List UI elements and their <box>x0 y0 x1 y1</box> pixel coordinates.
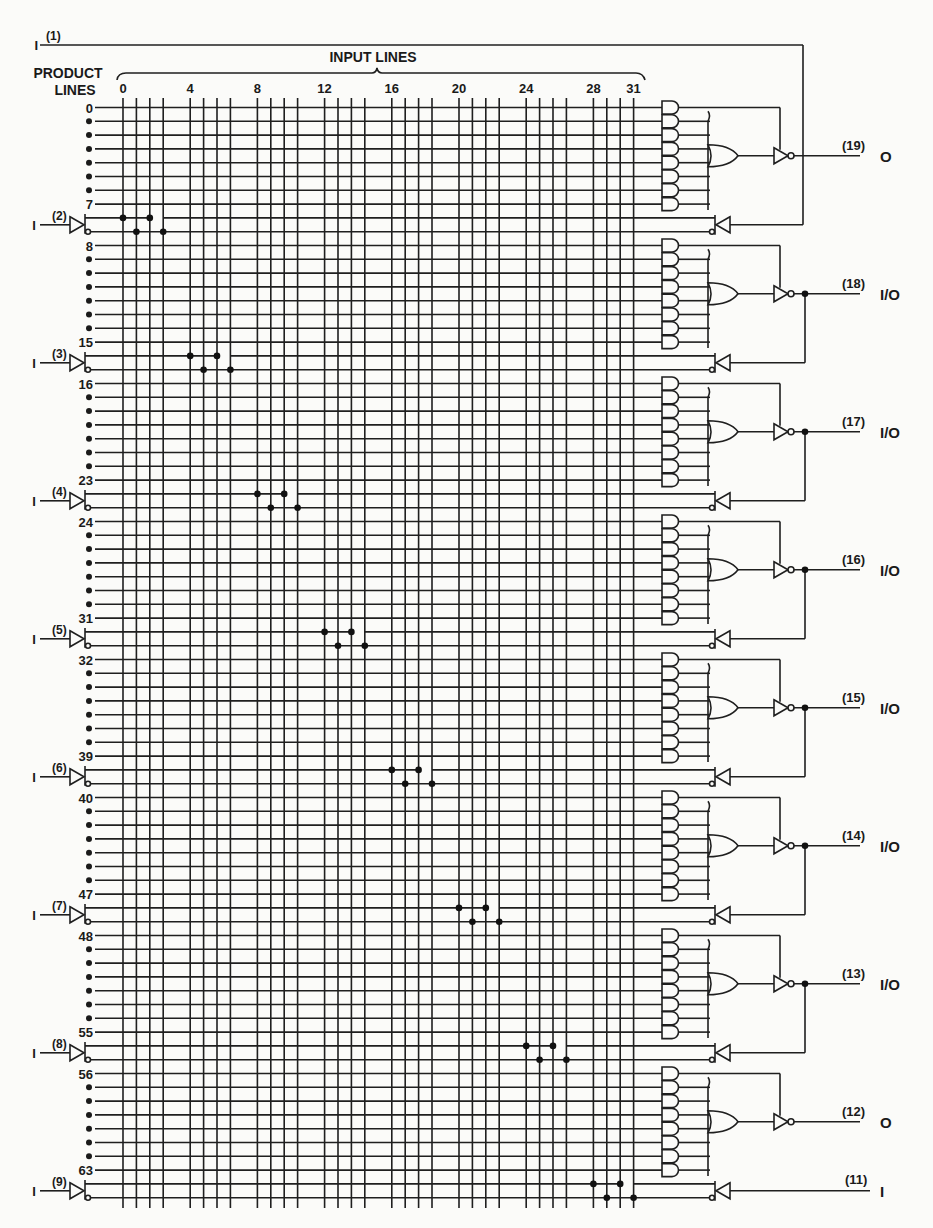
or-gate-icon <box>708 145 738 167</box>
inverter-bubble-icon <box>86 367 91 372</box>
and-gate-icon <box>662 294 679 307</box>
and-gate-icon <box>662 929 679 942</box>
junction-dot <box>802 567 809 574</box>
product-lines-label-2: LINES <box>54 82 95 98</box>
and-gate-icon <box>662 543 679 556</box>
ellipsis-dot <box>86 739 92 745</box>
input-pin-number: (8) <box>52 1037 67 1051</box>
and-gate-icon <box>662 115 679 128</box>
and-gate-icon <box>662 957 679 970</box>
input-pin-number: (4) <box>52 485 67 499</box>
input-buffer-icon <box>70 217 84 233</box>
and-gate-icon <box>662 239 679 252</box>
ellipsis-dot <box>86 284 92 290</box>
and-gate-icon <box>662 446 679 459</box>
column-tick-label: 8 <box>254 81 261 96</box>
inverter-bubble-icon <box>788 291 794 297</box>
column-tick-label: 12 <box>317 81 331 96</box>
output-buffer-icon <box>774 700 788 716</box>
fuse-dot <box>120 215 127 222</box>
and-gate-icon <box>662 529 679 542</box>
and-gate-icon <box>662 1164 679 1177</box>
column-tick-label: 20 <box>452 81 466 96</box>
product-line-label: 40 <box>79 791 93 806</box>
ellipsis-dot <box>86 174 92 180</box>
output-pin-type: I/O <box>880 424 900 441</box>
ellipsis-dot <box>86 946 92 952</box>
ellipsis-dot <box>86 1002 92 1008</box>
and-gate-icon <box>662 198 679 211</box>
fuse-dot <box>429 780 436 787</box>
input-buffer-icon <box>70 355 84 371</box>
and-gate-icon <box>662 970 679 983</box>
product-lines-label-1: PRODUCT <box>33 65 103 81</box>
fuse-dot <box>483 905 490 912</box>
and-gate-icon <box>662 515 679 528</box>
ellipsis-dot <box>86 698 92 704</box>
and-gate-icon <box>662 1012 679 1025</box>
fuse-dot <box>536 1056 543 1063</box>
and-gate-icon <box>662 708 679 721</box>
and-gate-icon <box>662 694 679 707</box>
inverter-bubble-icon <box>788 705 794 711</box>
product-line-label: 32 <box>79 653 93 668</box>
or-input-bus <box>708 663 710 762</box>
ellipsis-dot <box>86 1084 92 1090</box>
inverter-bubble-icon <box>788 981 794 987</box>
and-gate-icon <box>662 391 679 404</box>
ellipsis-dot <box>86 256 92 262</box>
and-gate-icon <box>662 984 679 997</box>
ellipsis-dot <box>86 1098 92 1104</box>
fuse-dot <box>227 366 234 373</box>
and-gate-icon <box>662 943 679 956</box>
ellipsis-dot <box>86 408 92 414</box>
input-pin-number: (5) <box>52 623 67 637</box>
and-gate-icon <box>662 142 679 155</box>
input-pin-number: (3) <box>52 347 67 361</box>
inverter-bubble-icon <box>710 919 715 924</box>
input-buffer-icon <box>70 907 84 923</box>
output-pin-number: (18) <box>842 276 865 291</box>
and-gate-icon <box>662 750 679 763</box>
and-gate-icon <box>662 405 678 418</box>
inverter-bubble-icon <box>86 643 91 648</box>
output-buffer-icon <box>774 838 788 854</box>
inverter-bubble-icon <box>86 1057 91 1062</box>
ellipsis-dot <box>86 960 92 966</box>
or-input-bus <box>708 111 710 210</box>
and-gate-icon <box>662 1026 679 1039</box>
and-gate-icon <box>662 722 679 735</box>
output-pin-type: I/O <box>880 562 900 579</box>
product-line-label: 16 <box>79 377 93 392</box>
fuse-dot <box>214 353 221 360</box>
ellipsis-dot <box>86 132 92 138</box>
inverter-bubble-icon <box>86 505 91 510</box>
and-gate-icon <box>662 819 679 832</box>
feedback-buffer-icon <box>716 631 730 647</box>
input-pin-type: I <box>32 908 36 923</box>
input-pin-type: I <box>32 1184 36 1199</box>
inverter-bubble-icon <box>710 505 715 510</box>
input-buffer-icon <box>70 631 84 647</box>
inverter-bubble-icon <box>710 367 715 372</box>
ellipsis-dot <box>86 546 92 552</box>
output-pin-type: I/O <box>880 286 900 303</box>
product-line-label: 56 <box>79 1067 93 1082</box>
ellipsis-dot <box>86 974 92 980</box>
and-gate-icon <box>662 1122 679 1135</box>
junction-dot <box>802 843 809 850</box>
ellipsis-dot <box>86 1112 92 1118</box>
and-gate-icon <box>662 336 679 349</box>
column-tick-label: 0 <box>119 81 126 96</box>
ellipsis-dot <box>86 1015 92 1021</box>
fuse-dot <box>496 918 503 925</box>
fuse-dot <box>187 353 194 360</box>
and-gate-icon <box>662 184 679 197</box>
and-gate-icon <box>662 460 679 473</box>
inverter-bubble-icon <box>86 1195 91 1200</box>
and-gate-icon <box>662 1067 679 1080</box>
ellipsis-dot <box>86 436 92 442</box>
product-line-label: 7 <box>86 197 93 212</box>
fuse-connections-layer <box>120 215 809 1201</box>
fuse-dot <box>200 366 207 373</box>
